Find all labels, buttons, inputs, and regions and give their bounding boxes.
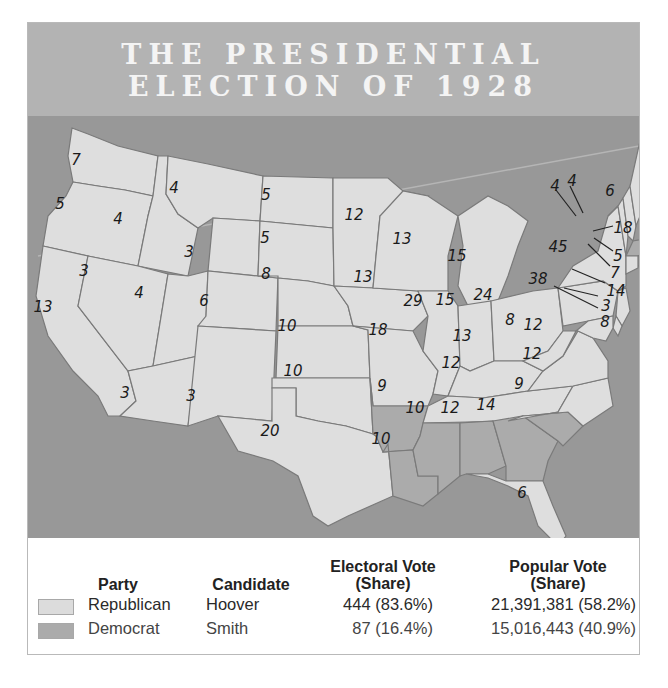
- label-IL: 29: [403, 292, 422, 310]
- label-AR: 9: [377, 377, 387, 395]
- label-MI: 15: [447, 247, 466, 265]
- label-NV: 3: [79, 262, 89, 280]
- label-NY: 45: [548, 238, 567, 256]
- us-map-svg: 7 5 13 4 3 4 3 4 3 6 3 5 5 8 10 10 20 12…: [28, 116, 639, 538]
- label-LA: 10: [371, 430, 390, 448]
- label-KS: 10: [277, 317, 296, 335]
- label-FL: 6: [517, 484, 527, 502]
- label-TX: 20: [260, 422, 279, 440]
- label-NM: 3: [186, 387, 196, 405]
- label-NH: 4: [567, 172, 577, 190]
- label-KY: 13: [452, 327, 471, 345]
- label-AL: 12: [440, 399, 459, 417]
- header-popular-vote: Popular Vote (Share): [483, 558, 633, 592]
- electoral-smith: 87 (16.4%): [318, 619, 433, 638]
- label-MS: 10: [405, 399, 424, 417]
- label-VT: 4: [550, 177, 560, 195]
- candidate-hoover: Hoover: [206, 595, 259, 614]
- label-CO: 6: [199, 292, 209, 310]
- label-MD: 8: [600, 313, 610, 331]
- label-OR: 5: [55, 195, 65, 213]
- label-OK: 10: [283, 362, 302, 380]
- label-MA: 18: [613, 219, 632, 237]
- header-party: Party: [88, 576, 148, 593]
- state-MI: [458, 196, 528, 306]
- header-electoral-line1: Electoral Vote: [318, 558, 448, 575]
- label-MN: 12: [344, 206, 363, 224]
- election-map-figure: THE PRESIDENTIAL ELECTION OF 1928: [27, 22, 640, 655]
- label-CA: 13: [33, 298, 52, 316]
- label-WY: 3: [184, 243, 194, 261]
- label-VA: 12: [523, 316, 542, 334]
- header-candidate: Candidate: [206, 576, 296, 593]
- label-WI: 13: [392, 230, 411, 248]
- label-ND: 5: [261, 186, 271, 204]
- us-map: 7 5 13 4 3 4 3 4 3 6 3 5 5 8 10 10 20 12…: [28, 116, 639, 538]
- state-FL: [466, 474, 566, 538]
- title-band: THE PRESIDENTIAL ELECTION OF 1928: [28, 23, 639, 116]
- party-democrat: Democrat: [88, 619, 160, 638]
- state-ND: [260, 176, 333, 228]
- legend-table: Party Candidate Electoral Vote (Share) P…: [28, 538, 639, 654]
- label-WV: 8: [505, 311, 515, 329]
- label-OH: 24: [473, 286, 492, 304]
- candidate-smith: Smith: [206, 619, 248, 638]
- title-line-1: THE PRESIDENTIAL: [28, 39, 639, 70]
- label-ME: 6: [605, 182, 615, 200]
- label-WA: 7: [71, 151, 81, 169]
- label-RI: 5: [613, 247, 623, 265]
- label-PA: 38: [528, 270, 547, 288]
- label-UT: 4: [134, 284, 144, 302]
- label-CT: 7: [610, 264, 620, 282]
- label-MO: 18: [368, 321, 387, 339]
- label-NC: 12: [522, 345, 541, 363]
- label-GA: 14: [476, 396, 495, 414]
- title-line-2: ELECTION OF 1928: [28, 71, 639, 102]
- state-CT: [626, 256, 638, 274]
- header-popular-line2: (Share): [483, 575, 633, 592]
- label-IA: 13: [353, 268, 372, 286]
- label-SD: 5: [260, 229, 270, 247]
- header-electoral-vote: Electoral Vote (Share): [318, 558, 448, 592]
- republican-swatch: [38, 599, 74, 615]
- party-republican: Republican: [88, 595, 171, 614]
- electoral-hoover: 444 (83.6%): [318, 595, 433, 614]
- label-AZ: 3: [120, 384, 130, 402]
- label-MT: 4: [169, 179, 179, 197]
- label-TN: 12: [441, 354, 460, 372]
- header-electoral-line2: (Share): [318, 575, 448, 592]
- state-WY: [208, 218, 260, 276]
- states-layer: [36, 128, 639, 538]
- state-NM: [188, 326, 276, 426]
- label-IN: 15: [435, 291, 454, 309]
- header-popular-line1: Popular Vote: [483, 558, 633, 575]
- label-NE: 8: [261, 265, 271, 283]
- popular-smith: 15,016,443 (40.9%): [458, 619, 636, 638]
- label-SC: 9: [514, 375, 524, 393]
- democrat-swatch: [38, 623, 74, 639]
- popular-hoover: 21,391,381 (58.2%): [458, 595, 636, 614]
- label-ID: 4: [113, 210, 123, 228]
